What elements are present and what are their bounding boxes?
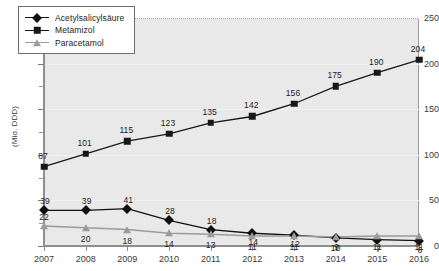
legend-item-paracetamol[interactable]: Paracetamol <box>25 37 124 49</box>
point-label: 22 <box>39 212 49 222</box>
data-point-square <box>249 113 256 120</box>
data-point-square <box>332 83 339 90</box>
data-point-square <box>166 131 173 138</box>
data-point-triangle <box>415 232 423 239</box>
point-label: 39 <box>40 196 50 206</box>
point-label: 204 <box>411 44 425 54</box>
legend-label-metamizol: Metamizol <box>55 25 95 35</box>
point-label: 11 <box>289 242 298 252</box>
legend-swatch-metamizol <box>25 25 49 36</box>
point-label: 10 <box>331 243 341 253</box>
point-label: 14 <box>164 239 174 249</box>
point-label: 156 <box>286 88 300 98</box>
triangle-marker-icon <box>33 39 41 46</box>
point-label: 190 <box>369 57 383 67</box>
data-point-square <box>374 69 381 76</box>
data-point-square <box>41 163 48 170</box>
diamond-marker-icon <box>32 13 42 23</box>
point-label: 11 <box>414 242 423 252</box>
data-point-triangle <box>123 226 131 233</box>
data-point-square <box>416 57 423 64</box>
data-point-triangle <box>373 232 381 239</box>
legend-item-metamizol[interactable]: Metamizol <box>25 24 124 36</box>
data-point-triangle <box>290 232 298 239</box>
data-point-triangle <box>82 224 90 231</box>
data-point-square <box>291 100 298 107</box>
data-point-square <box>207 120 214 127</box>
line-chart: (Mio. DDD) 050100150200250 2007200820092… <box>0 0 439 271</box>
point-label: 135 <box>202 107 216 117</box>
point-label: 20 <box>81 234 91 244</box>
chart-legend: Acetylsalicylsäure Metamizol Paracetamol <box>18 6 135 54</box>
legend-label-paracetamol: Paracetamol <box>55 38 104 48</box>
data-point-square <box>82 151 89 158</box>
legend-label-acetylsalicylsaure: Acetylsalicylsäure <box>55 13 124 23</box>
series-line-metamizol <box>44 60 419 167</box>
point-label: 18 <box>123 236 133 246</box>
data-point-triangle <box>40 222 48 229</box>
data-point-triangle <box>207 230 215 237</box>
legend-swatch-acetylsalicylsaure <box>25 12 49 23</box>
point-label: 39 <box>82 196 92 206</box>
point-label: 87 <box>38 151 48 161</box>
data-point-triangle <box>165 229 173 236</box>
point-label: 175 <box>327 70 341 80</box>
point-label: 101 <box>77 138 91 148</box>
point-label: 18 <box>207 216 217 226</box>
point-label: 11 <box>248 242 257 252</box>
data-point-triangle <box>332 233 340 240</box>
point-label: 13 <box>206 240 216 250</box>
data-point-square <box>124 138 131 145</box>
point-label: 41 <box>124 195 134 205</box>
point-label: 28 <box>165 206 175 216</box>
legend-swatch-paracetamol <box>25 37 49 48</box>
point-label: 11 <box>373 242 382 252</box>
point-label: 123 <box>161 118 175 128</box>
legend-item-acetylsalicylsaure[interactable]: Acetylsalicylsäure <box>25 12 124 24</box>
square-marker-icon <box>34 27 41 34</box>
point-label: 115 <box>119 125 133 135</box>
point-label: 142 <box>244 100 258 110</box>
